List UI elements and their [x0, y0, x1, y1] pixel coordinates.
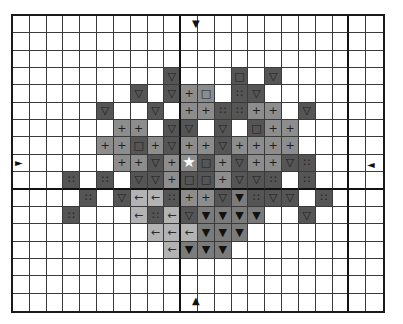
empty-cell	[148, 85, 165, 102]
empty-cell	[114, 242, 131, 259]
empty-cell	[248, 294, 265, 311]
four-dots-icon: ∷	[152, 210, 159, 221]
empty-cell	[333, 190, 350, 207]
empty-cell	[215, 51, 232, 68]
empty-cell	[333, 294, 350, 311]
triangle-down-filled-icon: ▼	[202, 210, 210, 221]
stitch-cell: +	[97, 137, 114, 154]
empty-cell	[131, 51, 148, 68]
empty-cell	[13, 190, 30, 207]
stitch-cell: +	[265, 120, 282, 137]
empty-cell	[80, 85, 97, 102]
empty-cell	[232, 242, 249, 259]
square-outline-icon: □	[201, 157, 211, 168]
stitch-cell: □	[198, 155, 215, 172]
empty-cell	[181, 68, 198, 85]
plus-icon: +	[184, 192, 193, 203]
plus-icon: +	[184, 105, 193, 116]
empty-cell	[30, 259, 47, 276]
triangle-down-outline-icon: ▽	[286, 157, 294, 168]
empty-cell	[97, 259, 114, 276]
empty-cell	[63, 242, 80, 259]
empty-cell	[316, 103, 333, 120]
stitch-cell: +	[181, 85, 198, 102]
empty-cell	[248, 33, 265, 50]
empty-cell	[13, 137, 30, 154]
empty-cell	[114, 172, 131, 189]
stitch-cell: ∷	[63, 172, 80, 189]
stitch-cell: ▽	[164, 85, 181, 102]
empty-cell	[148, 276, 165, 293]
stitch-cell: +	[114, 137, 131, 154]
empty-cell	[299, 190, 316, 207]
stitch-cell: +	[215, 155, 232, 172]
plus-icon: +	[167, 157, 176, 168]
empty-cell	[349, 172, 366, 189]
stitch-cell: ▽	[114, 190, 131, 207]
center-marker-top-icon: ▼	[192, 19, 200, 29]
empty-cell	[198, 33, 215, 50]
empty-cell	[349, 103, 366, 120]
triangle-down-outline-icon: ▽	[269, 192, 277, 203]
empty-cell	[265, 85, 282, 102]
stitch-cell: +	[198, 190, 215, 207]
empty-cell	[97, 16, 114, 33]
empty-cell	[164, 103, 181, 120]
empty-cell	[13, 224, 30, 241]
stitch-cell: ▽	[131, 85, 148, 102]
stitch-cell: ←	[131, 207, 148, 224]
empty-cell	[349, 137, 366, 154]
empty-cell	[366, 120, 383, 137]
empty-cell	[349, 120, 366, 137]
stitch-cell: ▽	[215, 137, 232, 154]
empty-cell	[13, 103, 30, 120]
empty-cell	[282, 224, 299, 241]
stitch-cell: +	[265, 155, 282, 172]
triangle-down-outline-icon: ▽	[218, 123, 226, 134]
empty-cell	[349, 207, 366, 224]
empty-cell	[114, 33, 131, 50]
empty-cell	[114, 103, 131, 120]
empty-cell	[63, 224, 80, 241]
triangle-down-outline-icon: ▽	[252, 88, 260, 99]
empty-cell	[114, 16, 131, 33]
empty-cell	[316, 224, 333, 241]
empty-cell	[282, 276, 299, 293]
stitch-cell: ∷	[248, 190, 265, 207]
empty-cell	[47, 120, 64, 137]
empty-cell	[349, 294, 366, 311]
empty-cell	[333, 137, 350, 154]
empty-cell	[299, 120, 316, 137]
four-dots-icon: ∷	[270, 174, 277, 185]
empty-cell	[232, 51, 249, 68]
empty-cell	[299, 137, 316, 154]
plus-icon: +	[151, 140, 160, 151]
plus-icon: +	[269, 105, 278, 116]
stitch-cell: □	[198, 85, 215, 102]
empty-cell	[80, 68, 97, 85]
empty-cell	[333, 155, 350, 172]
triangle-down-outline-icon: ▽	[134, 88, 142, 99]
four-dots-icon: ∷	[303, 174, 310, 185]
stitch-cell: ▼	[198, 242, 215, 259]
empty-cell	[80, 259, 97, 276]
plus-icon: +	[201, 140, 210, 151]
triangle-down-outline-icon: ▽	[151, 157, 159, 168]
empty-cell	[47, 137, 64, 154]
stitch-cell: ←	[148, 224, 165, 241]
stitch-cell: ∷	[265, 172, 282, 189]
stitch-cell: ▽	[148, 103, 165, 120]
empty-cell	[265, 224, 282, 241]
stitch-cell: □	[248, 120, 265, 137]
empty-cell	[80, 242, 97, 259]
empty-cell	[131, 68, 148, 85]
empty-cell	[282, 207, 299, 224]
stitch-cell: ∷	[97, 172, 114, 189]
empty-cell	[80, 224, 97, 241]
empty-cell	[366, 224, 383, 241]
empty-cell	[47, 276, 64, 293]
stitch-cell: +	[198, 137, 215, 154]
empty-cell	[114, 224, 131, 241]
stitch-cell: ▽	[164, 68, 181, 85]
stitch-cell: ▽	[232, 172, 249, 189]
